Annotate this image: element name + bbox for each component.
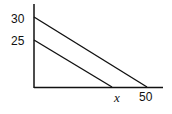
x-tick-50: 50 (139, 91, 152, 103)
y-tick-30: 30 (11, 13, 24, 25)
y-tick-25: 25 (11, 35, 24, 47)
inner-line (34, 40, 112, 87)
x-tick-x: x (114, 91, 120, 104)
outer-line (34, 17, 147, 87)
